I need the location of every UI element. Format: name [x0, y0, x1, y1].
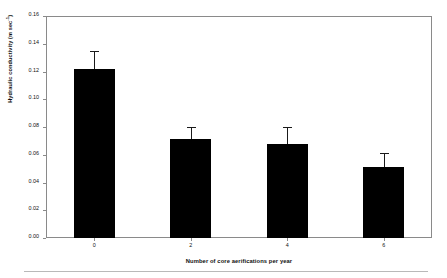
- y-axis-tick: 0.06: [0, 155, 46, 156]
- error-bar: [94, 51, 95, 69]
- bar: [74, 69, 115, 238]
- x-axis-tick-label: 2: [171, 243, 211, 248]
- y-axis-title-text: Hydraulic conductivity (m sec: [7, 21, 13, 103]
- y-axis-tick-mark: [43, 210, 46, 211]
- y-axis-tick-label: 0.08: [29, 123, 40, 128]
- y-axis-tick-mark: [43, 127, 46, 128]
- y-axis-tick: 0.16: [0, 16, 46, 17]
- x-axis-tick-label: 4: [267, 243, 307, 248]
- y-axis-tick: 0.04: [0, 183, 46, 184]
- x-axis-tick-mark: [384, 238, 385, 241]
- error-bar-cap: [380, 153, 389, 154]
- y-axis-tick-mark: [43, 44, 46, 45]
- y-axis-tick-label: 0.02: [29, 206, 40, 211]
- x-axis-tick-label: 0: [74, 243, 114, 248]
- y-axis-tick: 0.00: [0, 238, 46, 239]
- y-axis-tick-label: 0.12: [29, 68, 40, 73]
- bar: [267, 144, 308, 238]
- y-axis-tick-label: 0.04: [29, 179, 40, 184]
- y-axis-tick-mark: [43, 155, 46, 156]
- error-bar: [287, 127, 288, 144]
- x-axis-tick-label: 6: [364, 243, 404, 248]
- y-axis-title-superscript: -1: [5, 17, 10, 21]
- y-axis-tick-mark: [43, 99, 46, 100]
- y-axis-tick: 0.12: [0, 72, 46, 73]
- y-axis-tick: 0.10: [0, 99, 46, 100]
- y-axis-tick-label: 0.00: [29, 234, 40, 239]
- figure-root: Hydraulic conductivity (m sec-1) 0.160.1…: [0, 0, 447, 278]
- y-axis-tick-mark: [43, 16, 46, 17]
- y-axis-tick: 0.08: [0, 127, 46, 128]
- error-bar-cap: [283, 127, 292, 128]
- error-bar-cap: [187, 127, 196, 128]
- y-axis-tick: 0.02: [0, 210, 46, 211]
- y-axis-tick-mark: [43, 183, 46, 184]
- y-axis-tick-label: 0.06: [29, 151, 40, 156]
- footer-divider: [24, 271, 428, 272]
- error-bar-cap: [90, 51, 99, 52]
- y-axis-tick-label: 0.14: [29, 40, 40, 45]
- x-axis-tick-mark: [94, 238, 95, 241]
- y-axis-title: Hydraulic conductivity (m sec-1): [8, 4, 14, 114]
- error-bar: [191, 127, 192, 139]
- x-axis-title: Number of core aerifications per year: [46, 258, 432, 264]
- y-axis-tick: 0.14: [0, 44, 46, 45]
- y-axis-tick-label: 0.10: [29, 95, 40, 100]
- bar: [363, 167, 404, 238]
- y-axis-tick-mark: [43, 238, 46, 239]
- y-axis-tick-label: 0.16: [29, 12, 40, 17]
- bar: [170, 139, 211, 238]
- error-bar: [384, 153, 385, 167]
- y-axis-tick-mark: [43, 72, 46, 73]
- x-axis-tick-mark: [191, 238, 192, 241]
- x-axis-tick-mark: [287, 238, 288, 241]
